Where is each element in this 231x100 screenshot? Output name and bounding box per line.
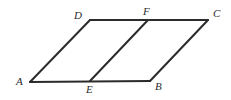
vertex-label-a: A [16,76,23,87]
segment-da [30,20,90,82]
segment-ef [90,20,148,81]
vertex-label-b: B [155,81,162,92]
geometry-canvas [0,0,231,100]
vertex-label-d: D [74,10,82,21]
vertex-label-f: F [143,6,150,17]
geometry-figure: AEBCFD [0,0,231,100]
segments-group [30,20,208,82]
vertex-label-c: C [213,8,220,19]
vertex-label-e: E [86,84,93,95]
segment-bc [150,20,208,81]
